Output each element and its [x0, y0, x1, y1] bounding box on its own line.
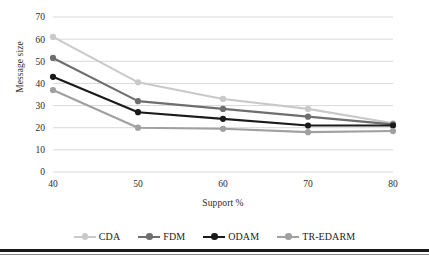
data-point-odam — [135, 109, 141, 115]
legend-item-tr-edarm[interactable]: TR-EDARM — [277, 231, 355, 242]
data-point-cda — [305, 106, 311, 112]
legend-item-odam[interactable]: ODAM — [203, 231, 259, 242]
x-tick-label: 70 — [303, 179, 313, 189]
legend-label: FDM — [163, 231, 185, 242]
data-point-tr-edarm — [135, 125, 141, 131]
bottom-rule-thick — [0, 249, 429, 252]
y-tick-label: 60 — [36, 35, 46, 45]
legend-swatch-icon — [203, 232, 225, 242]
plot-area: 0102030405060704050607080 Message size S… — [0, 0, 429, 230]
data-point-tr-edarm — [305, 129, 311, 135]
legend-marker-icon — [211, 233, 218, 240]
x-tick-label: 60 — [218, 179, 228, 189]
data-point-cda — [135, 79, 141, 85]
data-point-tr-edarm — [220, 126, 226, 132]
data-point-cda — [220, 96, 226, 102]
data-point-fdm — [305, 114, 311, 120]
y-tick-label: 70 — [36, 12, 46, 22]
legend-label: CDA — [99, 231, 120, 242]
legend-item-cda[interactable]: CDA — [74, 231, 120, 242]
figure-container: 0102030405060704050607080 Message size S… — [0, 0, 429, 262]
data-point-tr-edarm — [50, 87, 56, 93]
legend-marker-icon — [285, 233, 292, 240]
y-tick-label: 20 — [36, 123, 46, 133]
data-point-fdm — [135, 98, 141, 104]
line-chart-svg: 0102030405060704050607080 — [0, 0, 429, 230]
y-tick-label: 0 — [40, 167, 45, 177]
data-point-odam — [305, 122, 311, 128]
y-axis-title: Message size — [15, 17, 25, 117]
bottom-rule-thin — [0, 254, 429, 255]
data-point-odam — [50, 74, 56, 80]
x-tick-label: 50 — [133, 179, 143, 189]
legend-swatch-icon — [277, 232, 299, 242]
legend-swatch-icon — [74, 232, 96, 242]
legend-label: ODAM — [228, 231, 259, 242]
chart-legend: CDAFDMODAMTR-EDARM — [0, 231, 429, 242]
data-point-fdm — [50, 55, 56, 61]
legend-swatch-icon — [138, 232, 160, 242]
data-point-fdm — [220, 106, 226, 112]
y-tick-label: 50 — [36, 57, 46, 67]
legend-marker-icon — [82, 233, 89, 240]
legend-marker-icon — [146, 233, 153, 240]
legend-item-fdm[interactable]: FDM — [138, 231, 185, 242]
x-axis-title: Support % — [53, 198, 393, 208]
y-tick-label: 10 — [36, 145, 46, 155]
data-point-cda — [50, 34, 56, 40]
x-tick-label: 40 — [48, 179, 58, 189]
y-tick-label: 40 — [36, 79, 46, 89]
y-tick-label: 30 — [36, 101, 46, 111]
data-point-odam — [390, 122, 396, 128]
legend-label: TR-EDARM — [302, 231, 355, 242]
x-tick-label: 80 — [388, 179, 398, 189]
data-point-tr-edarm — [390, 128, 396, 134]
data-point-odam — [220, 116, 226, 122]
